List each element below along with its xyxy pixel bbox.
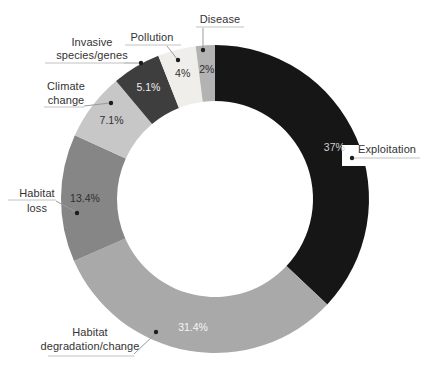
label-habitat-loss: Habitat loss bbox=[7, 186, 67, 216]
label-habitat-degradation-line-1: Habitat bbox=[30, 325, 150, 339]
leader-dot-exploitation bbox=[350, 156, 354, 160]
label-exploitation-line: Exploitation bbox=[358, 143, 428, 156]
label-exploitation: Exploitation bbox=[358, 143, 428, 156]
label-climate-change-line-2: change bbox=[36, 93, 96, 107]
leader-dot-habitat-loss bbox=[75, 211, 79, 215]
label-habitat-degradation-line-2: degradation/change bbox=[30, 339, 150, 353]
leader-dot-climate-change bbox=[109, 101, 113, 105]
pct-label-habitat-degradation-change: 31.4% bbox=[178, 321, 208, 333]
pct-label-disease: 2% bbox=[199, 63, 214, 75]
segment-exploitation bbox=[215, 45, 369, 304]
label-pollution-line: Pollution bbox=[122, 31, 182, 44]
pct-label-invasive-species-genes: 5.1% bbox=[137, 81, 161, 93]
pct-label-climate-change: 7.1% bbox=[100, 114, 124, 126]
pct-label-pollution: 4% bbox=[175, 67, 190, 79]
label-climate-change: Climate change bbox=[36, 79, 96, 107]
figure-donut-chart: 37%31.4%13.4%7.1%5.1%4%2% Exploitation H… bbox=[0, 0, 430, 374]
leader-dot-disease bbox=[201, 48, 205, 52]
leader-dot-habitat-degradation-change bbox=[154, 330, 158, 334]
label-climate-change-line-1: Climate bbox=[36, 79, 96, 93]
label-habitat-degradation-change: Habitat degradation/change bbox=[30, 325, 150, 353]
pct-label-habitat-loss: 13.4% bbox=[70, 192, 100, 204]
label-pollution: Pollution bbox=[122, 31, 182, 44]
label-disease-line: Disease bbox=[190, 13, 250, 26]
label-invasive-line-2: species/genes bbox=[42, 49, 142, 62]
pct-label-exploitation: 37% bbox=[324, 141, 345, 153]
label-habitat-loss-line-1: Habitat bbox=[7, 186, 67, 201]
leader-dot-pollution bbox=[176, 58, 180, 62]
label-habitat-loss-line-2: loss bbox=[7, 201, 67, 216]
label-disease: Disease bbox=[190, 13, 250, 26]
